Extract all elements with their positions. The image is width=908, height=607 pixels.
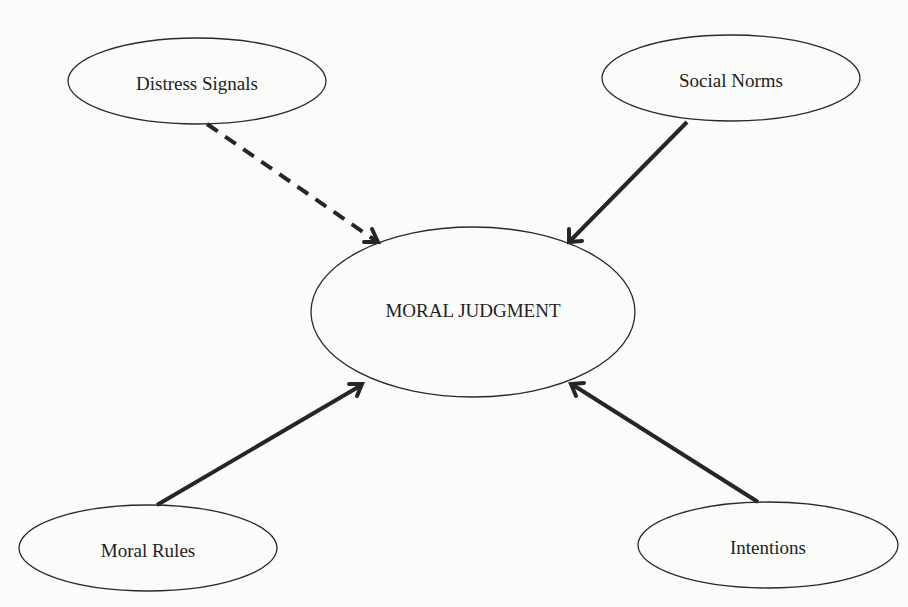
node-label: Social Norms [679, 70, 783, 91]
dashed-arrow-line [207, 124, 376, 241]
node-label: Intentions [730, 537, 806, 558]
node-moral-judgment: MORAL JUDGMENT [311, 227, 635, 397]
node-label: Moral Rules [101, 540, 195, 561]
diagram-canvas: MORAL JUDGMENT Distress Signals Social N… [0, 0, 908, 607]
solid-arrow-line [573, 385, 758, 502]
node-label: MORAL JUDGMENT [385, 300, 560, 321]
node-moral-rules: Moral Rules [19, 505, 277, 591]
edge-moral-rules-to-moral-judgment [157, 384, 362, 505]
solid-arrow-line [157, 386, 360, 505]
edge-intentions-to-moral-judgment [571, 383, 758, 502]
edge-distress-signals-to-moral-judgment [207, 124, 378, 242]
node-label: Distress Signals [136, 73, 258, 94]
edge-social-norms-to-moral-judgment [569, 122, 687, 242]
node-distress-signals: Distress Signals [68, 38, 326, 124]
node-social-norms: Social Norms [602, 35, 860, 121]
node-intentions: Intentions [638, 502, 898, 588]
solid-arrow-line [571, 122, 687, 240]
